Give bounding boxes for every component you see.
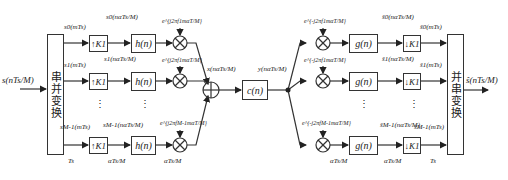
downsampler-block: ↓K1 xyxy=(403,73,421,90)
mod-label: e^{j2πf1mαT/M} xyxy=(162,18,202,24)
sub-in-label: s0(mTs) xyxy=(64,24,86,31)
ellipsis: ⋮ xyxy=(359,102,369,106)
sub-out-label: ŝ0(mTs) xyxy=(420,24,442,31)
channel-output-label: y(nαTs/M) xyxy=(258,66,287,73)
ellipsis: ⋮ xyxy=(409,102,419,106)
upsampler-block: ↑K1 xyxy=(89,137,108,154)
sub-up-label: s0(nαTs/M) xyxy=(106,14,138,21)
downsampler-block: ↓K1 xyxy=(403,137,421,154)
demod-label: e^{-j2πf1mαT/M} xyxy=(304,18,346,24)
rate-label: Ts xyxy=(430,158,436,165)
rate-label: αTs/M xyxy=(108,158,125,165)
sub-out-label: ŝM-1(mTs) xyxy=(414,124,444,131)
mod-label: e^{j2πfM-1mαT/M} xyxy=(160,120,207,126)
tx-filter-block: h(n) xyxy=(131,34,156,53)
ellipsis: ⋮ xyxy=(140,102,150,106)
input-signal-label: s(nTs/M) xyxy=(2,76,34,85)
parallel-to-serial-block: 并串变换 xyxy=(447,34,464,155)
sum-output-label: x(nαTs/M) xyxy=(207,66,236,73)
rx-filter-block: g(n) xyxy=(349,136,378,155)
rate-label: αTs/M xyxy=(384,158,401,165)
sub-filt-label: ŝ1(nαTs/M) xyxy=(382,56,414,63)
mod-label: e^{j2πf1mαT/M} xyxy=(162,57,202,63)
rate-label: αTs/M xyxy=(164,158,181,165)
tx-filter-block: h(n) xyxy=(131,72,156,91)
serial-to-parallel-block: 串并变换 xyxy=(47,34,64,155)
downsampler-block: ↓K1 xyxy=(403,35,421,52)
sub-out-label: ŝ1(mTs) xyxy=(420,62,442,69)
demod-label: e^{-j2πf1mαT/M} xyxy=(304,57,346,63)
channel-block: c(n) xyxy=(242,80,268,100)
ellipsis: ⋮ xyxy=(95,102,105,106)
rx-filter-block: g(n) xyxy=(349,34,378,53)
rate-label: Ts xyxy=(68,158,74,165)
output-signal-label: ŝ(nTs/M) xyxy=(466,76,498,85)
sub-up-label: s1(nαTs/M) xyxy=(104,56,136,63)
sub-in-label: s1(mTs) xyxy=(64,62,86,69)
upsampler-block: ↑K1 xyxy=(89,73,108,90)
rate-label: αTs/M xyxy=(330,158,347,165)
sub-in-label: sM-1(mTs) xyxy=(60,124,90,131)
sub-up-label: sM-1(nαTs/M) xyxy=(103,122,143,129)
demod-label: e^{-j2πfM-1mαT/M} xyxy=(302,120,351,126)
upsampler-block: ↑K1 xyxy=(89,35,108,52)
rx-filter-block: g(n) xyxy=(349,72,378,91)
tx-filter-block: h(n) xyxy=(131,136,156,155)
sub-filt-label: ŝ0(nαTs/M) xyxy=(382,14,414,21)
